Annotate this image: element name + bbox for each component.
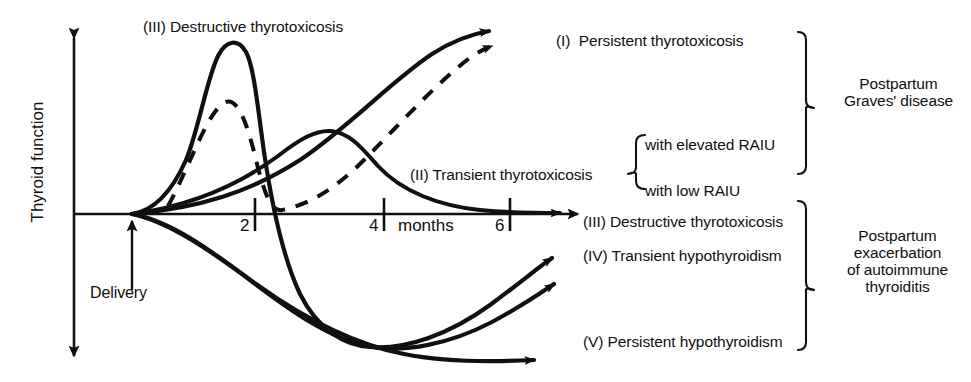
curve-persistent-hypothyroidism <box>132 214 534 361</box>
group-label-graves-text: Postpartum Graves' disease <box>844 75 953 109</box>
curve-persistent-thyrotoxicosis <box>132 31 489 214</box>
x-axis-unit-label: months <box>398 216 454 236</box>
x-tick-label-4: 4 <box>369 216 378 236</box>
label-destructive-thyrotoxicosis-top: (III) Destructive thyrotoxicosis <box>143 18 343 35</box>
delivery-label: Delivery <box>90 284 147 301</box>
group-label-autoimmune: Postpartum exacerbation of autoimmune th… <box>824 227 971 295</box>
figure-canvas: Thyroid function 2 4 6 months Delivery (… <box>0 0 971 382</box>
thyroid-function-chart <box>0 0 971 382</box>
autoimmune-group-brace <box>798 201 814 350</box>
y-axis-label: Thyroid function <box>28 72 48 252</box>
graves-group-brace <box>798 32 814 174</box>
x-tick-label-6: 6 <box>495 216 504 236</box>
label-transient-thyrotoxicosis: (II) Transient thyrotoxicosis <box>410 166 592 183</box>
group-label-autoimmune-text: Postpartum exacerbation of autoimmune th… <box>847 227 948 295</box>
curve-persistent-thyrotoxicosis-dashed <box>168 46 492 210</box>
curve-destructive-thyrotoxicosis <box>132 43 552 348</box>
label-destructive-thyrotoxicosis-bottom: (III) Destructive thyrotoxicosis <box>583 213 783 230</box>
label-with-elevated-raiu: with elevated RAIU <box>645 136 775 153</box>
label-persistent-thyrotoxicosis: (I) Persistent thyrotoxicosis <box>556 32 743 49</box>
label-persistent-hypothyroidism: (V) Persistent hypothyroidism <box>583 333 783 350</box>
x-tick-label-2: 2 <box>240 216 249 236</box>
curve-transient-hypothyroidism <box>132 214 554 349</box>
label-with-low-raiu: with low RAIU <box>645 182 740 199</box>
group-label-graves: Postpartum Graves' disease <box>826 75 971 109</box>
raiu-brace <box>628 135 645 189</box>
label-transient-hypothyroidism: (IV) Transient hypothyroidism <box>583 247 782 264</box>
